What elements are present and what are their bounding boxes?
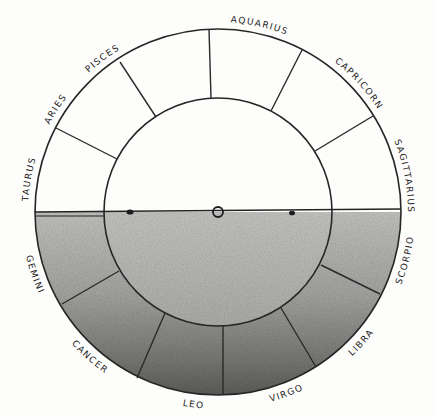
sign-label-aries: ARIES [42,92,69,126]
planet-dot-marker-left [127,209,134,214]
zodiac-diagram: TAURUS ARIES PISCES AQUARIUS CAPRICORN S… [0,0,436,417]
planet-dot-marker-right [289,211,295,216]
below-horizon-shading [35,212,401,395]
sign-label-leo: LEO [182,398,205,411]
zodiac-wheel-svg: TAURUS ARIES PISCES AQUARIUS CAPRICORN S… [0,0,436,417]
labels-above-horizon: TAURUS ARIES PISCES AQUARIUS CAPRICORN S… [20,14,416,213]
sign-label-capricorn: CAPRICORN [333,56,385,112]
sign-label-sagittarius: SAGITTARIUS [392,138,416,214]
